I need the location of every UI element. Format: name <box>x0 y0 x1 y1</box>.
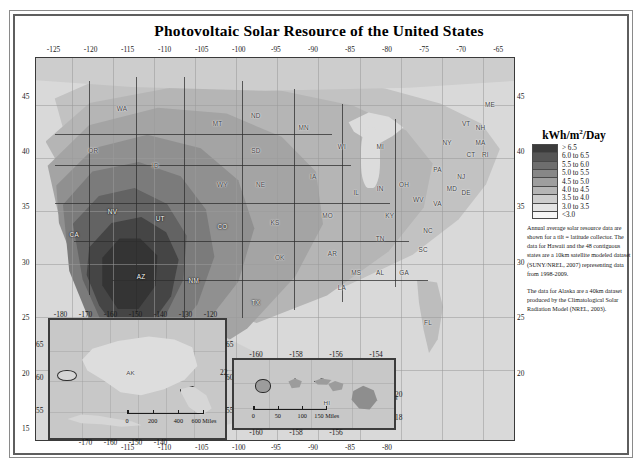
state-label-wy: WY <box>217 181 228 188</box>
figure-root: Photovoltaic Solar Resource of the Unite… <box>0 0 640 473</box>
state-label-wi: WI <box>338 142 346 149</box>
lon-tick-bottom: -95 <box>271 443 281 452</box>
hawaii-lon-tick-top: -158 <box>289 350 303 359</box>
state-label-va: VA <box>433 200 441 207</box>
state-label-ok: OK <box>275 253 285 260</box>
graticule-line <box>442 58 443 440</box>
alaska-lat-tick-left: 55 <box>36 405 43 414</box>
state-border <box>55 134 332 135</box>
alaska-scalebar-label: 200 <box>148 417 157 424</box>
hawaii-scalebar-label: 150 Miles <box>314 412 339 419</box>
state-label-az: AZ <box>137 272 146 279</box>
state-label-wv: WV <box>413 196 424 203</box>
state-label-mn: MN <box>299 123 309 130</box>
lon-tick-bottom: -90 <box>308 443 318 452</box>
alaska-lon-tick-top: -120 <box>204 310 218 319</box>
alaska-scalebar-label: 0 <box>125 417 128 424</box>
state-label-nd: ND <box>251 112 261 119</box>
state-label-ky: KY <box>385 211 394 218</box>
lon-tick-top: -95 <box>271 45 281 54</box>
alaska-lon-tick-top: -150 <box>129 310 143 319</box>
legend-swatch <box>532 177 558 185</box>
hawaii-scalebar-label: 0 <box>252 412 255 419</box>
legend-row: <3.0 <box>532 211 628 219</box>
state-label-hi: HI <box>324 399 331 406</box>
graticule-line <box>36 158 514 159</box>
legend-title-tail: /Day <box>583 129 606 141</box>
state-border <box>294 89 295 311</box>
page-title: Photovoltaic Solar Resource of the Unite… <box>13 22 625 40</box>
state-label-sd: SD <box>251 146 260 153</box>
hawaii-lon-tick-bottom: -160 <box>249 428 263 437</box>
aleutian-island-west <box>57 370 77 381</box>
alaska-scalebar-tick <box>153 410 154 414</box>
state-border <box>184 77 185 321</box>
legend-label: 5.0 to 5.5 <box>562 169 589 177</box>
alaska-lon-tick-top: -170 <box>79 310 93 319</box>
legend-label: 6.0 to 6.5 <box>562 152 589 160</box>
lat-tick-left: 45 <box>22 91 29 100</box>
state-label-tn: TN <box>376 234 385 241</box>
legend-swatch <box>532 144 558 152</box>
state-label-ks: KS <box>271 219 280 226</box>
legend-row: > 6.5 <box>532 144 628 152</box>
state-label-ia: IA <box>310 173 316 180</box>
state-label-nv: NV <box>108 207 117 214</box>
legend-class-list: > 6.56.0 to 6.55.5 to 6.05.0 to 5.54.5 t… <box>532 144 628 220</box>
legend-row: 5.0 to 5.5 <box>532 169 628 177</box>
lat-tick-right: 25 <box>517 313 524 322</box>
state-label-de: DE <box>462 188 471 195</box>
lon-tick-bottom: -85 <box>345 443 355 452</box>
lon-tick-top: -120 <box>84 45 98 54</box>
state-label-mo: MO <box>322 211 333 218</box>
lon-tick-top: -65 <box>493 45 503 54</box>
alaska-lon-tick-bottom: -140 <box>154 438 168 447</box>
state-label-ut: UT <box>156 215 165 222</box>
legend-label: 3.5 to 4.0 <box>562 194 589 202</box>
state-label-nc: NC <box>423 226 433 233</box>
legend-label: 3.0 to 3.5 <box>562 203 589 211</box>
state-label-pa: PA <box>433 165 441 172</box>
legend-label: 4.5 to 5.0 <box>562 178 589 186</box>
alaska-scalebar-labels: 0200400600 Miles <box>127 417 204 427</box>
state-label-ny: NY <box>442 139 451 146</box>
alaska-lat-tick-left: 60 <box>36 373 43 382</box>
state-label-in: IN <box>377 184 384 191</box>
lon-tick-top: -75 <box>419 45 429 54</box>
state-label-ma: MA <box>476 139 486 146</box>
state-label-co: CO <box>217 223 227 230</box>
alaska-inset: AK 0200400600 Miles <box>48 318 227 440</box>
graticule-line <box>36 264 514 265</box>
alaska-lon-tick-top: -130 <box>179 310 193 319</box>
hawaii-scalebar-tick <box>278 406 279 410</box>
legend-swatch <box>532 152 558 160</box>
lon-tick-bottom: -100 <box>232 443 246 452</box>
lat-tick-left: 25 <box>22 313 29 322</box>
state-border <box>74 241 409 242</box>
alaska-lon-tick-top: -140 <box>154 310 168 319</box>
legend-title: kWh/m2/Day <box>520 128 628 141</box>
state-label-oh: OH <box>399 181 409 188</box>
alaska-lon-tick-bottom: -170 <box>79 438 93 447</box>
state-label-la: LA <box>338 284 346 291</box>
legend-swatch <box>532 203 558 211</box>
state-border <box>55 203 390 204</box>
legend-label: 4.0 to 4.5 <box>562 186 589 194</box>
lon-tick-top: -110 <box>158 45 171 54</box>
hawaii-lat-tick-right: 20 <box>395 390 402 399</box>
state-label-tx: TX <box>252 299 261 306</box>
lat-tick-right: 45 <box>517 91 524 100</box>
state-label-nm: NM <box>189 276 199 283</box>
state-label-vt: VT <box>462 119 471 126</box>
state-label-fl: FL <box>424 318 432 325</box>
lat-tick-left: 20 <box>22 368 29 377</box>
state-label-wa: WA <box>117 104 127 111</box>
legend-row: 4.0 to 4.5 <box>532 186 628 194</box>
lon-tick-top: -105 <box>195 45 209 54</box>
lon-tick-top: -125 <box>47 45 61 54</box>
caption-paragraph-2: The data for Alaska are a 40km dataset p… <box>527 287 631 314</box>
lon-tick-top: -90 <box>308 45 318 54</box>
lat-tick-right: 20 <box>517 368 524 377</box>
state-label-ak: AK <box>126 368 135 375</box>
state-label-nh: NH <box>476 123 486 130</box>
